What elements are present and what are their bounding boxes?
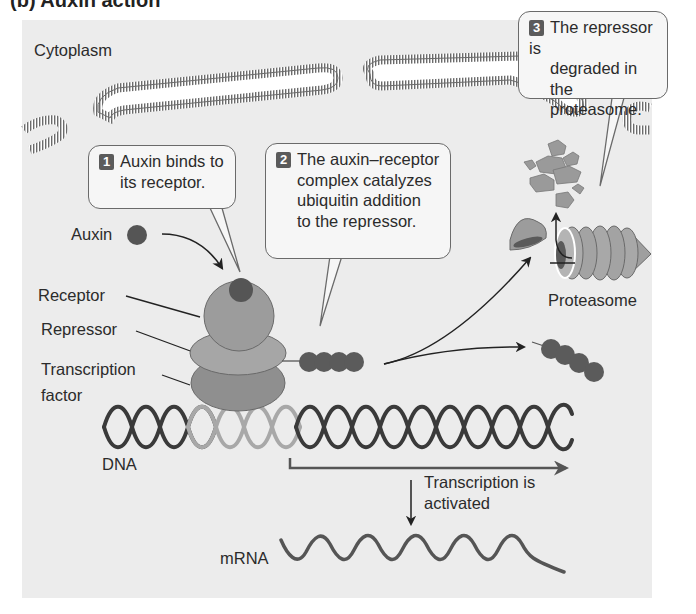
step-3-badge: 3 (529, 20, 544, 36)
repressor-leader (136, 331, 193, 352)
callout-3-line2: degraded in the (529, 58, 659, 99)
er-membrane-left (98, 68, 338, 118)
proteasome (555, 226, 651, 280)
callout-step-3: 3The repressor is degraded in the protea… (518, 11, 668, 99)
transcription-factor-label-line2: factor (41, 385, 82, 405)
peptide-fragments (524, 140, 584, 208)
dna-helix (104, 405, 572, 450)
receptor-leader (126, 296, 200, 317)
mrna-label: mRNA (220, 548, 269, 568)
callout-2-tail (320, 256, 342, 326)
transcription-start-arrow (290, 458, 566, 468)
callout-2-line3: ubiquitin addition (276, 190, 442, 211)
repressor-label: Repressor (41, 319, 117, 339)
step-1-badge: 1 (99, 154, 114, 170)
proteasome-cap (510, 219, 546, 250)
mrna-strand (281, 535, 564, 572)
step-2-badge: 2 (276, 152, 291, 168)
receptor-label: Receptor (38, 285, 105, 305)
ubiquitin-release-arrow (384, 347, 524, 364)
transcription-factor-label-line1: Transcription (41, 359, 136, 379)
transcription-activated-label-line1: Transcription is (424, 472, 535, 492)
ubiquitin-chain (299, 352, 364, 372)
callout-3-line3: proteasome. (529, 99, 659, 120)
er-membrane-edge-left (24, 120, 63, 150)
callout-1-tail (210, 208, 240, 272)
callout-step-2: 2The auxin–receptor complex catalyzes ub… (265, 143, 451, 259)
transcription-factor-leader (162, 375, 190, 385)
callout-2-line1: The auxin–receptor (297, 150, 439, 168)
released-ubiquitin (541, 339, 604, 382)
callout-1-line2: its receptor. (99, 172, 227, 193)
auxin-molecule (127, 225, 147, 245)
auxin-bound (229, 278, 253, 302)
callout-step-1: 1Auxin binds to its receptor. (88, 145, 236, 209)
callout-2-line4: to the repressor. (276, 211, 442, 232)
callout-1-line1: Auxin binds to (120, 152, 224, 170)
callout-3-line1: The repressor is (529, 18, 653, 57)
proteasome-label: Proteasome (548, 290, 637, 310)
dna-label: DNA (102, 454, 137, 474)
auxin-binding-arrow (162, 234, 222, 268)
to-proteasome-arrow (384, 258, 530, 364)
cytoplasm-label: Cytoplasm (34, 40, 112, 60)
callout-2-line2: complex catalyzes (276, 170, 442, 191)
auxin-label: Auxin (71, 224, 112, 244)
transcription-activated-label-line2: activated (424, 493, 490, 513)
